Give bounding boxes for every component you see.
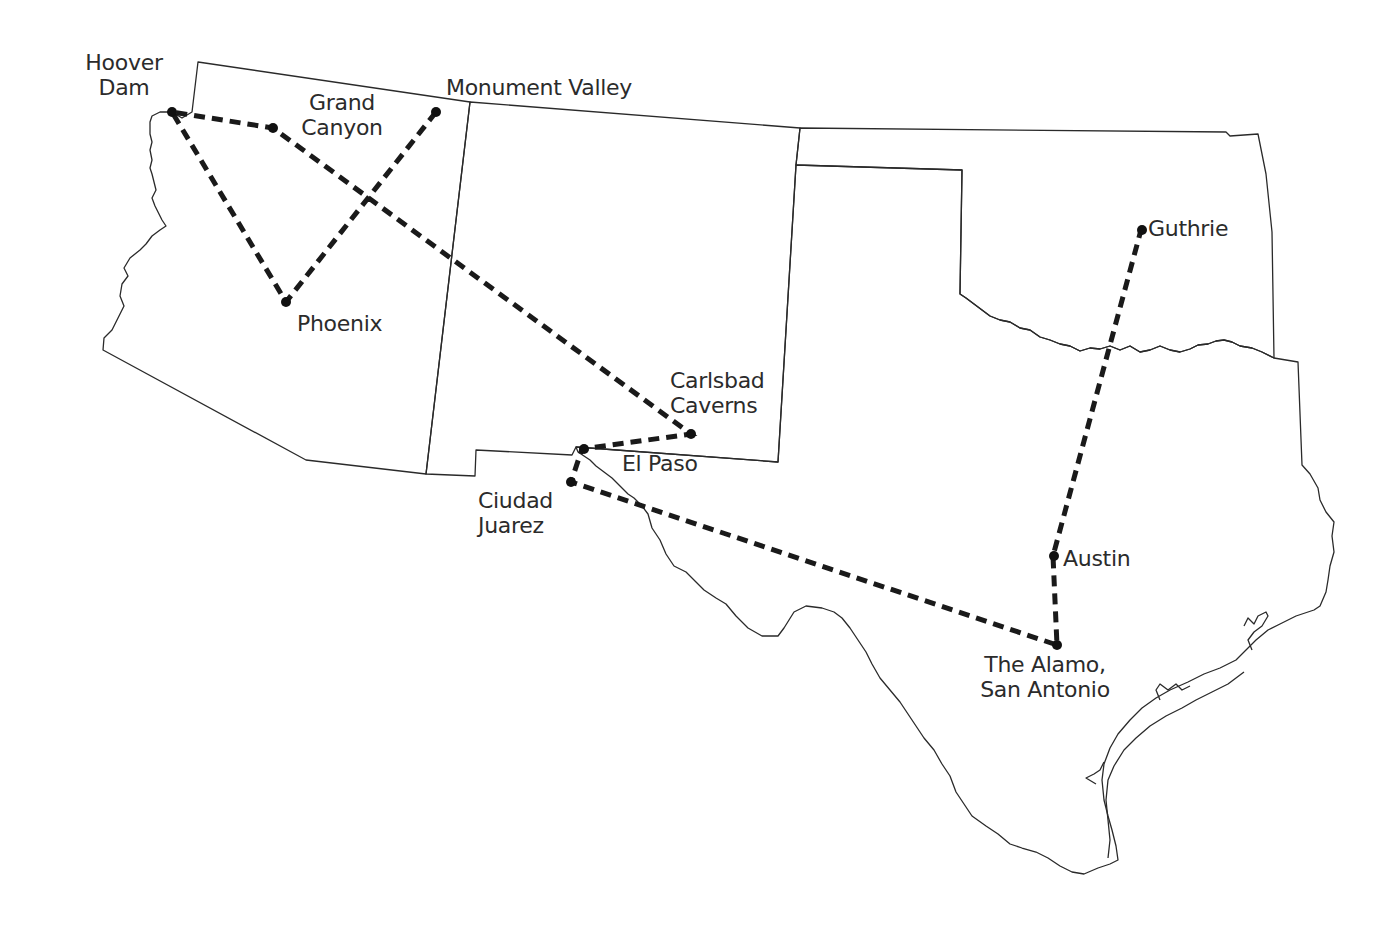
oklahoma-border bbox=[796, 128, 1274, 358]
new-mexico-border bbox=[426, 102, 800, 476]
label-austin: Austin bbox=[1063, 546, 1130, 571]
stop-carlsbad-caverns[interactable] bbox=[686, 429, 696, 439]
stop-grand-canyon[interactable] bbox=[268, 123, 278, 133]
stop-hoover-dam[interactable] bbox=[167, 107, 177, 117]
stop-austin[interactable] bbox=[1049, 551, 1059, 561]
barrier-islands bbox=[1106, 672, 1244, 858]
label-ciudad-juarez: Ciudad Juarez bbox=[478, 488, 553, 538]
label-guthrie: Guthrie bbox=[1148, 216, 1228, 241]
corpus-christi-bay bbox=[1086, 762, 1104, 784]
stop-the-alamo[interactable] bbox=[1052, 640, 1062, 650]
route-line bbox=[172, 112, 1141, 645]
label-hoover-dam: Hoover Dam bbox=[74, 50, 174, 100]
stop-ciudad-juarez[interactable] bbox=[566, 477, 576, 487]
map-canvas bbox=[0, 0, 1398, 927]
stop-monument-valley[interactable] bbox=[431, 107, 441, 117]
arizona-border bbox=[103, 62, 470, 474]
stop-guthrie[interactable] bbox=[1137, 225, 1147, 235]
galveston-bay bbox=[1244, 612, 1268, 650]
label-monument-valley: Monument Valley bbox=[446, 75, 632, 100]
label-phoenix: Phoenix bbox=[297, 311, 382, 336]
label-grand-canyon: Grand Canyon bbox=[292, 90, 392, 140]
label-the-alamo: The Alamo, San Antonio bbox=[965, 652, 1125, 702]
label-el-paso: El Paso bbox=[622, 451, 698, 476]
stop-el-paso[interactable] bbox=[579, 444, 589, 454]
matagorda-bay bbox=[1156, 684, 1190, 700]
stop-phoenix[interactable] bbox=[281, 297, 291, 307]
label-carlsbad-caverns: Carlsbad Caverns bbox=[670, 368, 764, 418]
